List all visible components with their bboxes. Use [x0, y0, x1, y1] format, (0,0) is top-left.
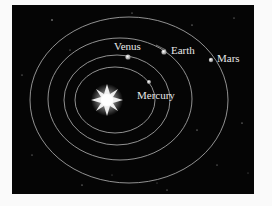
label-mercury: Mercury [137, 90, 175, 101]
label-earth: Earth [171, 45, 195, 56]
label-venus: Venus [114, 41, 141, 52]
planet-venus-icon [125, 54, 130, 59]
planet-earth-icon [161, 49, 166, 54]
label-mars: Mars [217, 53, 240, 64]
planet-mercury-icon [147, 80, 151, 84]
sun-icon [91, 84, 123, 116]
orbit-diagram-svg [12, 5, 254, 194]
planet-mars-icon [209, 58, 213, 62]
solar-system-diagram: Venus Earth Mars Mercury [12, 5, 254, 194]
